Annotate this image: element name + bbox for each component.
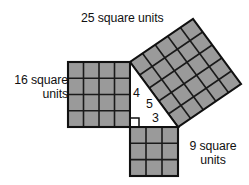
label-leg4-square: 16 squareunits [4,74,68,102]
leg3-square-fill [130,127,178,176]
pythagorean-diagram: 25 square units 16 squareunits 9 squareu… [0,0,249,185]
label-hypotenuse-square: 25 square units [81,12,164,26]
label-leg4-square-line1: 16 square [14,73,68,87]
label-leg3-square-line2: units [200,153,225,167]
square-on-leg-3 [130,127,178,176]
label-leg3-square-line1: 9 square [189,139,236,153]
square-on-leg-4 [68,62,130,127]
side-label-hypotenuse: 5 [146,97,153,111]
side-label-leg-horizontal: 3 [152,111,159,125]
side-label-leg-vertical: 4 [133,86,140,100]
label-leg4-square-line2: units [43,87,68,101]
label-leg3-square: 9 squareunits [180,140,246,168]
